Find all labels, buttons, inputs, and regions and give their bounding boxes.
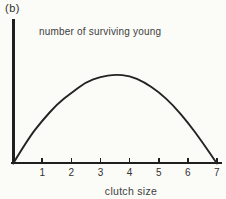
x-axis-title: clutch size (70, 185, 192, 197)
x-tick-label: 6 (181, 167, 195, 178)
x-axis (11, 162, 222, 164)
panel-label: (b) (5, 2, 20, 14)
x-tick (158, 158, 160, 163)
y-axis (12, 19, 15, 164)
survival-curve (13, 75, 217, 164)
x-tick (129, 158, 131, 163)
x-tick-label: 3 (94, 167, 108, 178)
x-tick-label: 4 (123, 167, 137, 178)
figure-panel-b: (b) number of surviving young 1234567 cl… (0, 0, 226, 199)
x-tick-label: 5 (152, 167, 166, 178)
x-tick (216, 158, 218, 163)
x-tick-label: 7 (210, 167, 224, 178)
x-tick-label: 1 (35, 167, 49, 178)
x-tick-label: 2 (64, 167, 78, 178)
x-tick (71, 158, 73, 163)
x-tick (41, 158, 43, 163)
x-tick (187, 158, 189, 163)
y-axis-title: number of surviving young (39, 26, 161, 37)
x-tick (100, 158, 102, 163)
